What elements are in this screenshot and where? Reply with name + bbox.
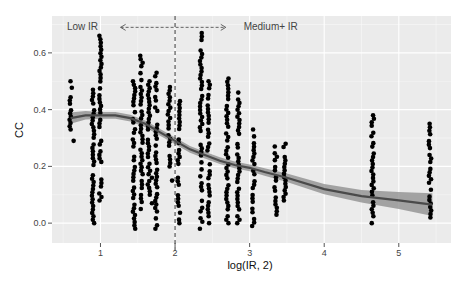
annotation-medium-ir: Medium+ IR [244, 21, 298, 32]
annotation-low-ir: Low IR [67, 21, 98, 32]
x-tick-label: 2 [173, 248, 178, 258]
x-tick-label: 4 [322, 248, 327, 258]
y-axis-ticks: 0.00.20.40.6 [33, 48, 52, 228]
x-tick-label: 3 [247, 248, 252, 258]
chart: Low IRMedium+ IR 12345 0.00.20.40.6 log(… [0, 0, 469, 285]
y-tick-label: 0.2 [33, 161, 46, 171]
x-tick-label: 5 [396, 248, 401, 258]
y-axis-title: CC [13, 122, 25, 138]
y-tick-label: 0.6 [33, 48, 46, 58]
y-tick-label: 0.0 [33, 218, 46, 228]
x-tick-label: 1 [98, 248, 103, 258]
x-axis-title: log(IR, 2) [227, 259, 272, 271]
x-axis-ticks: 12345 [98, 243, 401, 258]
y-tick-label: 0.4 [33, 105, 46, 115]
